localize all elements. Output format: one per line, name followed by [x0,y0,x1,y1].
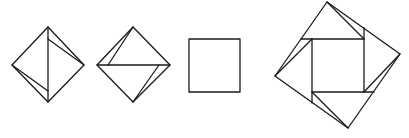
pinwheel-square-fold-line [312,92,348,128]
pinwheel-square [275,2,400,128]
diamond-horizontal-fold [97,27,170,102]
diamond-vertical-fold-fold-line [12,65,48,91]
diamond-horizontal-fold-fold-line [133,65,159,102]
pinwheel-square-fold-line [364,54,400,92]
pinwheel-square-outline [275,2,400,128]
diamond-horizontal-fold-fold-line [108,27,133,65]
geometry-figures [0,0,409,138]
pinwheel-square-fold-line [275,39,312,76]
figure-canvas [0,0,409,138]
pinwheel-square-fold-line [327,2,364,39]
diamond-vertical-fold-fold-line [48,39,84,65]
square-outline [189,39,240,92]
diamond-vertical-fold [12,27,84,102]
square [189,39,240,92]
